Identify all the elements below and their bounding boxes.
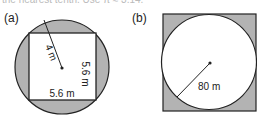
radius-label: 80 m <box>198 81 220 92</box>
side-bottom-label: 5.6 m <box>49 88 74 99</box>
diagram-canvas: 4 m 5.6 m 5.6 m 80 m <box>0 0 257 115</box>
side-right-label: 5.6 m <box>80 61 91 86</box>
figure-a: 4 m 5.6 m 5.6 m <box>15 20 109 114</box>
center-dot <box>60 66 63 69</box>
figure-b: 80 m <box>162 14 257 111</box>
center-dot <box>208 61 211 64</box>
